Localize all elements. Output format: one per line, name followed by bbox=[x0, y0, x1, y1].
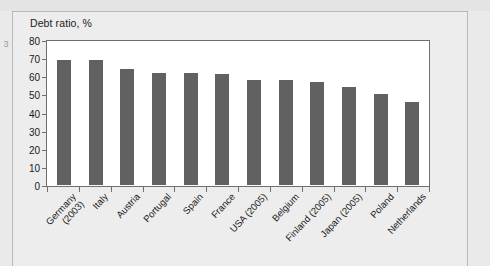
bar-slot bbox=[80, 42, 112, 185]
x-axis-tick-label: Portugal bbox=[141, 191, 173, 224]
bar bbox=[405, 102, 419, 185]
x-axis-tick-label: Spain bbox=[181, 191, 206, 216]
chart-title: Debt ratio, % bbox=[30, 17, 92, 29]
bar bbox=[279, 80, 293, 185]
bar bbox=[247, 80, 261, 185]
bar-slot bbox=[365, 42, 397, 185]
bar-slot bbox=[175, 42, 207, 185]
bar bbox=[374, 94, 388, 185]
bar bbox=[342, 87, 356, 185]
bar bbox=[89, 60, 103, 185]
x-axis-tick-label: Poland bbox=[368, 191, 396, 220]
x-axis-tick-label: Belgium bbox=[269, 191, 300, 224]
x-axis-tick-label: Germany(2003) bbox=[43, 191, 86, 235]
y-axis-tick-mark bbox=[42, 114, 47, 115]
y-axis-tick-mark bbox=[42, 150, 47, 151]
page-top-strip bbox=[0, 0, 490, 11]
bar bbox=[310, 82, 324, 185]
y-axis-tick-mark bbox=[42, 95, 47, 96]
bar-series bbox=[48, 42, 428, 185]
y-axis-tick-mark bbox=[42, 59, 47, 60]
bar-slot bbox=[333, 42, 365, 185]
bar-slot bbox=[396, 42, 428, 185]
y-axis-tick-mark bbox=[42, 77, 47, 78]
bar bbox=[152, 73, 166, 185]
bar bbox=[57, 60, 71, 185]
x-axis-tick-label: Italy bbox=[90, 191, 110, 211]
y-axis-tick-mark bbox=[42, 41, 47, 42]
bar-slot bbox=[270, 42, 302, 185]
x-axis-tick-label: France bbox=[209, 191, 237, 220]
bar-slot bbox=[111, 42, 143, 185]
y-axis-tick-mark bbox=[42, 168, 47, 169]
bar bbox=[184, 73, 198, 185]
bar-slot bbox=[48, 42, 80, 185]
bar bbox=[120, 69, 134, 185]
x-axis-tick-label: Austria bbox=[113, 191, 141, 220]
plot-area: 80706050403020100 bbox=[46, 40, 430, 187]
y-axis-tick-mark bbox=[42, 132, 47, 133]
bar bbox=[215, 74, 229, 185]
bar-slot bbox=[238, 42, 270, 185]
bar-slot bbox=[301, 42, 333, 185]
left-margin-glyph: 3 bbox=[1, 38, 11, 50]
x-axis-labels: Germany(2003)ItalyAustriaPortugalSpainFr… bbox=[46, 191, 430, 261]
bar-slot bbox=[206, 42, 238, 185]
bar-slot bbox=[143, 42, 175, 185]
